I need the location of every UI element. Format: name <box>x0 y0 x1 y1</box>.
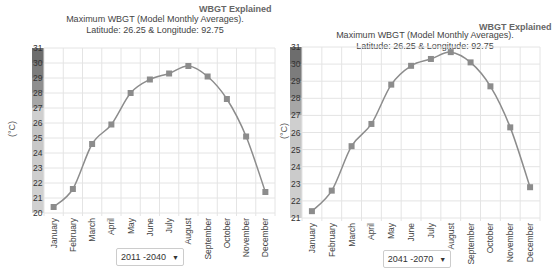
line-chart-2041-2070: 2122232425262728293031JanuaryFebruaryMar… <box>280 0 559 278</box>
data-point-marker[interactable] <box>108 122 114 128</box>
period-select[interactable]: 2011 -2040 ▼ <box>116 248 184 266</box>
y-tick-label: 23 <box>291 179 301 189</box>
data-point-marker[interactable] <box>428 56 434 62</box>
y-tick-label: 25 <box>33 133 43 143</box>
x-tick-label: January <box>307 222 317 253</box>
y-tick-label: 22 <box>291 196 301 206</box>
data-point-marker[interactable] <box>468 59 474 65</box>
data-point-marker[interactable] <box>147 77 153 83</box>
data-point-marker[interactable] <box>388 82 394 88</box>
x-tick-label: October <box>222 218 232 248</box>
data-point-marker[interactable] <box>329 188 335 194</box>
x-tick-label: December <box>260 218 270 257</box>
data-point-marker[interactable] <box>205 74 211 80</box>
x-tick-label: March <box>87 218 97 242</box>
x-tick-label: February <box>68 217 78 252</box>
chevron-down-icon: ▼ <box>439 256 446 263</box>
y-tick-label: 27 <box>33 103 43 113</box>
x-tick-label: October <box>485 223 495 253</box>
data-point-marker[interactable] <box>185 63 191 69</box>
data-point-marker[interactable] <box>309 208 315 214</box>
data-point-marker[interactable] <box>448 49 454 55</box>
data-point-marker[interactable] <box>128 90 134 96</box>
y-tick-label: 30 <box>291 59 301 69</box>
period-select-value: 2011 -2040 <box>121 252 166 262</box>
data-point-marker[interactable] <box>89 141 95 147</box>
data-point-marker[interactable] <box>243 134 249 140</box>
y-tick-label: 22 <box>33 178 43 188</box>
x-tick-label: June <box>406 223 416 242</box>
x-tick-label: November <box>241 218 251 257</box>
period-select[interactable]: 2041 -2070 ▼ <box>383 250 451 268</box>
x-tick-label: December <box>525 223 535 262</box>
y-tick-label: 24 <box>33 148 43 158</box>
x-tick-label: August <box>446 222 456 249</box>
x-tick-label: July <box>164 217 174 233</box>
chevron-down-icon: ▼ <box>172 254 179 261</box>
grid <box>302 47 540 221</box>
x-tick-label: May <box>126 217 136 234</box>
data-point-marker[interactable] <box>507 124 513 130</box>
chart-panel-left: WBGT Explained Maximum WBGT (Model Month… <box>0 0 280 278</box>
x-tick-label: September <box>203 218 213 260</box>
y-tick-label: 26 <box>291 128 301 138</box>
x-tick-label: April <box>366 223 376 240</box>
y-tick-label: 28 <box>291 93 301 103</box>
x-tick-label: February <box>327 222 337 257</box>
x-tick-label: May <box>386 222 396 239</box>
y-tick-label: 28 <box>33 88 43 98</box>
x-tick-label: March <box>347 223 357 247</box>
data-point-marker[interactable] <box>262 189 268 195</box>
data-point-marker[interactable] <box>51 204 57 210</box>
x-tick-label: November <box>505 223 515 262</box>
data-point-marker[interactable] <box>527 184 533 190</box>
data-point-marker[interactable] <box>349 143 355 149</box>
x-tick-label: July <box>426 222 436 238</box>
y-tick-label: 21 <box>291 213 301 223</box>
data-point-marker[interactable] <box>166 71 172 77</box>
x-tick-label: June <box>145 218 155 237</box>
data-point-marker[interactable] <box>408 63 414 69</box>
x-tick-label: April <box>106 218 116 235</box>
y-tick-label: 27 <box>291 110 301 120</box>
line-chart-2011-2040: 202122232425262728293031JanuaryFebruaryM… <box>0 0 280 278</box>
y-tick-label: 31 <box>291 42 301 52</box>
data-point-marker[interactable] <box>368 121 374 127</box>
y-tick-label: 24 <box>291 162 301 172</box>
y-tick-label: 26 <box>33 118 43 128</box>
data-point-marker[interactable] <box>487 83 493 89</box>
y-tick-label: 25 <box>291 145 301 155</box>
x-tick-label: August <box>183 217 193 244</box>
x-tick-label: September <box>466 223 476 265</box>
y-tick-label: 30 <box>33 58 43 68</box>
y-tick-label: 29 <box>291 76 301 86</box>
data-point-marker[interactable] <box>224 96 230 102</box>
y-tick-label: 29 <box>33 73 43 83</box>
chart-panel-right: WBGT Explained Maximum WBGT (Model Month… <box>280 0 559 278</box>
y-tick-label: 20 <box>33 208 43 218</box>
data-point-marker[interactable] <box>70 186 76 192</box>
y-tick-label: 23 <box>33 163 43 173</box>
y-tick-label: 31 <box>33 43 43 53</box>
grid <box>44 48 275 216</box>
x-tick-label: January <box>49 217 59 248</box>
period-select-value: 2041 -2070 <box>388 254 434 264</box>
y-tick-label: 21 <box>33 193 43 203</box>
